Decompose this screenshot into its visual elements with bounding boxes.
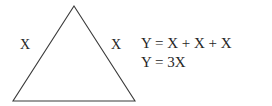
equation-block: Y = X + X + X Y = 3X	[141, 34, 269, 72]
triangle-side-label-left: X	[20, 38, 30, 52]
triangle-shape	[0, 0, 150, 106]
triangle-side-label-right: X	[111, 38, 121, 52]
triangle-outline	[13, 6, 135, 101]
figure-canvas: X X Y = X + X + X Y = 3X	[0, 0, 272, 106]
equation-line-2: Y = 3X	[141, 53, 269, 72]
equation-line-1: Y = X + X + X	[141, 34, 269, 53]
